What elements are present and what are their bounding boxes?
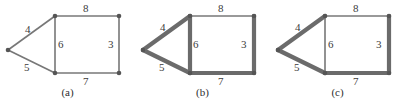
edge-weight-label-b-edge-3: 3 xyxy=(241,39,247,50)
edge-weight-label-b-edge-6: 6 xyxy=(193,39,199,50)
edge-weight-label-a-edge-8: 8 xyxy=(83,3,89,14)
graph-b-vertex-bottom-right xyxy=(252,71,257,76)
graph-b-edge-4 xyxy=(143,16,190,50)
graph-c-vertex-left-apex xyxy=(276,48,281,53)
graph-b-vertex-left-apex xyxy=(141,48,146,53)
figure-panel-b: 456837(b) xyxy=(135,0,270,108)
figure-panel-a: 456837(a) xyxy=(0,0,135,108)
edge-weight-label-b-edge-8: 8 xyxy=(218,3,224,14)
figure-row: 456837(a)456837(b)456837(c) xyxy=(0,0,405,108)
edge-weight-label-c-edge-6: 6 xyxy=(328,39,334,50)
graph-drawing-a xyxy=(0,0,135,88)
graph-a-vertex-bottom-right xyxy=(117,71,122,76)
graph-drawing-c xyxy=(270,0,405,88)
figure-panel-c: 456837(c) xyxy=(270,0,405,108)
graph-c-vertex-top-left xyxy=(323,14,328,19)
graph-c-vertex-bottom-right xyxy=(387,71,392,76)
graph-b-vertex-top-left xyxy=(188,14,193,19)
graph-c-vertex-bottom-left xyxy=(323,71,328,76)
edge-weight-label-a-edge-3: 3 xyxy=(108,39,114,50)
edge-weight-label-b-edge-5: 5 xyxy=(159,62,165,73)
graph-a-vertex-left-apex xyxy=(6,48,11,53)
edge-weight-label-c-edge-4: 4 xyxy=(295,22,301,33)
edge-weight-label-a-edge-6: 6 xyxy=(58,39,64,50)
graph-c-edge-5 xyxy=(278,50,325,73)
edge-weight-label-a-edge-4: 4 xyxy=(25,24,31,35)
edge-weight-label-b-edge-4: 4 xyxy=(160,22,166,33)
graph-b-vertex-bottom-left xyxy=(188,71,193,76)
graph-a-edge-5 xyxy=(8,50,55,73)
graph-a-vertex-top-left xyxy=(53,14,58,19)
edge-weight-label-c-edge-3: 3 xyxy=(376,39,382,50)
graph-b-vertex-top-right xyxy=(252,14,257,19)
graph-c-vertex-top-right xyxy=(387,14,392,19)
panel-caption-c: (c) xyxy=(270,86,405,99)
graph-a-vertex-top-right xyxy=(117,14,122,19)
graph-drawing-b xyxy=(135,0,270,88)
edge-weight-label-c-edge-5: 5 xyxy=(294,62,300,73)
edge-weight-label-c-edge-8: 8 xyxy=(353,3,359,14)
graph-b-edge-5 xyxy=(143,50,190,73)
graph-a-vertex-bottom-left xyxy=(53,71,58,76)
graph-a-edge-4 xyxy=(8,16,55,50)
edge-weight-label-a-edge-5: 5 xyxy=(24,62,30,73)
panel-caption-a: (a) xyxy=(0,86,135,99)
panel-caption-b: (b) xyxy=(135,86,270,99)
graph-c-edge-4 xyxy=(278,16,325,50)
